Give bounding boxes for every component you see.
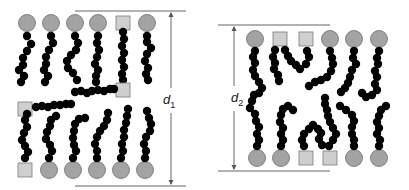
tail-bead-icon bbox=[81, 114, 89, 122]
arrowhead-down-icon bbox=[232, 165, 237, 170]
tail-bead-icon bbox=[67, 100, 75, 108]
tail-bead-icon bbox=[303, 47, 311, 55]
lipid-tail-chain bbox=[140, 107, 155, 162]
tail-bead-icon bbox=[92, 78, 100, 86]
tail-bead-icon bbox=[336, 102, 344, 110]
lipid-tail-chain bbox=[71, 85, 118, 97]
tail-bead-icon bbox=[275, 77, 283, 85]
lipid-tail-chain bbox=[18, 110, 32, 162]
tail-bead-icon bbox=[17, 78, 25, 86]
square-headgroup-icon bbox=[18, 163, 32, 177]
lipid-bilayer-diagram: d1 d2 bbox=[0, 0, 409, 190]
square-headgroup-icon bbox=[299, 32, 313, 46]
square-headgroup-icon bbox=[299, 151, 313, 165]
tail-bead-icon bbox=[143, 107, 151, 115]
square-headgroup-icon bbox=[116, 83, 130, 97]
arrowhead-up-icon bbox=[232, 26, 237, 31]
tail-bead-icon bbox=[144, 76, 152, 84]
tail-bead-icon bbox=[41, 78, 49, 86]
tail-bead-icon bbox=[250, 91, 258, 99]
tail-bead-icon bbox=[23, 110, 31, 118]
circle-headgroup-icon bbox=[89, 162, 106, 179]
circle-headgroup-icon bbox=[65, 162, 82, 179]
lipid-tail-chain bbox=[276, 102, 297, 150]
lipid-tail-chain bbox=[117, 105, 132, 162]
lipid-tail-chain bbox=[40, 32, 57, 86]
tail-bead-icon bbox=[382, 102, 390, 110]
circle-headgroup-icon bbox=[371, 150, 388, 167]
lipid-tail-chain bbox=[358, 47, 383, 101]
arrowhead-up-icon bbox=[169, 12, 174, 17]
lipid-tail-chain bbox=[249, 47, 266, 97]
lipid-tail-chain bbox=[118, 28, 128, 84]
d2-subscript: 2 bbox=[238, 98, 243, 108]
circle-headgroup-icon bbox=[139, 15, 156, 32]
circle-headgroup-icon bbox=[41, 162, 58, 179]
lipid-tail-chain bbox=[141, 32, 155, 84]
lipid-tail-chain bbox=[32, 100, 75, 111]
lipid-tail-chain bbox=[281, 46, 313, 73]
lipid-tail-chain bbox=[91, 109, 112, 162]
circle-headgroup-icon bbox=[90, 15, 107, 32]
lipid-tail-chain bbox=[298, 121, 326, 150]
lipid-tail-chain bbox=[373, 102, 390, 150]
lipid-tail-chain bbox=[69, 114, 89, 162]
circle-headgroup-icon bbox=[113, 162, 130, 179]
lipid-tail-chain bbox=[269, 46, 283, 85]
circle-headgroup-icon bbox=[247, 31, 264, 48]
tail-bead-icon bbox=[358, 89, 366, 97]
circle-headgroup-icon bbox=[346, 31, 363, 48]
tail-bead-icon bbox=[73, 76, 81, 84]
circle-headgroup-icon bbox=[273, 150, 290, 167]
lipid-tail-chain bbox=[42, 112, 60, 162]
lipid-tail-chain bbox=[336, 102, 358, 150]
arrowhead-down-icon bbox=[169, 180, 174, 185]
square-headgroup-icon bbox=[273, 32, 287, 46]
circle-headgroup-icon bbox=[43, 15, 60, 32]
tail-bead-icon bbox=[23, 32, 31, 40]
tail-bead-icon bbox=[104, 109, 112, 117]
lipid-tail-chain bbox=[246, 91, 263, 150]
tail-bead-icon bbox=[124, 105, 132, 113]
tail-bead-icon bbox=[52, 112, 60, 120]
circle-headgroup-icon bbox=[346, 150, 363, 167]
tail-bead-icon bbox=[337, 88, 345, 96]
d1-subscript: 1 bbox=[170, 100, 175, 110]
tail-bead-icon bbox=[305, 82, 313, 90]
bilayer-figure bbox=[0, 0, 409, 190]
lipid-tail-chain bbox=[15, 32, 35, 86]
lipid-tail-chain bbox=[91, 32, 103, 86]
tail-bead-icon bbox=[321, 94, 329, 102]
circle-headgroup-icon bbox=[322, 31, 339, 48]
lipid-tail-chain bbox=[337, 47, 360, 96]
tail-bead-icon bbox=[289, 106, 297, 114]
circle-headgroup-icon bbox=[371, 31, 388, 48]
circle-headgroup-icon bbox=[249, 150, 266, 167]
dimension-label-d1: d1 bbox=[163, 92, 175, 113]
circle-headgroup-icon bbox=[67, 15, 84, 32]
lipid-tail-chain bbox=[63, 32, 82, 84]
circle-headgroup-icon bbox=[137, 162, 154, 179]
tail-bead-icon bbox=[110, 85, 118, 93]
square-headgroup-icon bbox=[323, 151, 337, 165]
circle-headgroup-icon bbox=[19, 15, 36, 32]
dimension-label-d2: d2 bbox=[231, 90, 243, 111]
